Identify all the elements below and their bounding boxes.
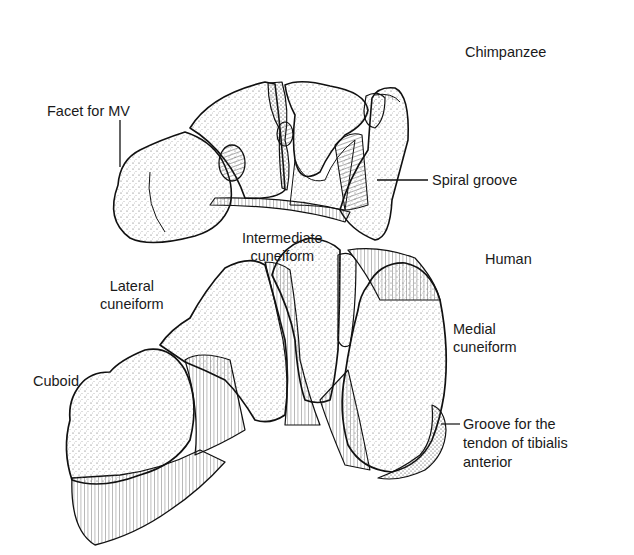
label-groove-line1: Groove for the (463, 415, 568, 434)
label-spiral-groove: Spiral groove (432, 171, 517, 189)
label-intermediate-cuneiform: Intermediate cuneiform (242, 229, 323, 265)
facet-for-mv-bone (114, 132, 232, 243)
label-cuboid: Cuboid (33, 372, 79, 390)
label-medial-cuneiform-line1: Medial (453, 320, 517, 338)
label-intermediate-cuneiform-line1: Intermediate (242, 229, 323, 247)
panel-title-chimpanzee: Chimpanzee (465, 43, 546, 61)
label-intermediate-cuneiform-line2: cuneiform (242, 247, 323, 265)
label-lateral-cuneiform: Lateral cuneiform (100, 277, 164, 313)
label-facet-for-mv: Facet for MV (47, 102, 130, 120)
label-lateral-cuneiform-line2: cuneiform (100, 295, 164, 313)
label-medial-cuneiform-line2: cuneiform (453, 338, 517, 356)
label-groove-for-tendon: Groove for the tendon of tibialis anteri… (463, 415, 568, 472)
chimpanzee-tarsals (114, 82, 409, 243)
panel-title-human: Human (485, 250, 532, 268)
label-medial-cuneiform: Medial cuneiform (453, 320, 517, 356)
label-lateral-cuneiform-line1: Lateral (100, 277, 164, 295)
label-groove-line3: anterior (463, 453, 568, 472)
label-groove-line2: tendon of tibialis (463, 434, 568, 453)
